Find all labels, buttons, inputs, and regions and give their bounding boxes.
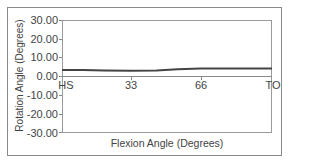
x-tick-label: HS <box>58 80 73 91</box>
rotation-series-line <box>62 69 272 71</box>
x-axis-label: Flexion Angle (Degrees) <box>62 137 272 149</box>
x-tick-label: 33 <box>125 80 137 91</box>
x-tick-label: 66 <box>195 80 207 91</box>
x-tick-label: TO <box>265 80 280 91</box>
